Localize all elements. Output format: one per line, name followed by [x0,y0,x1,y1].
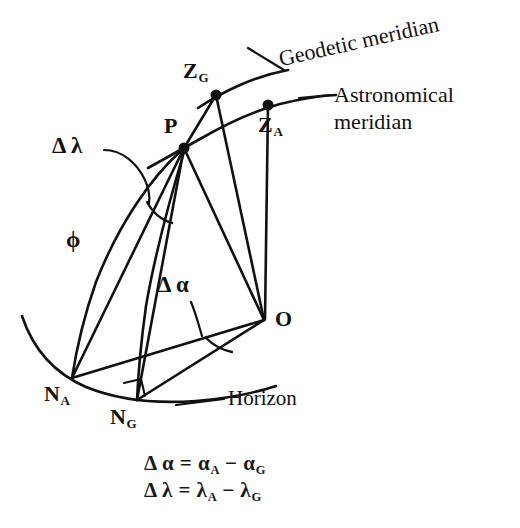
callout-astronomical-meridian-line2: meridian [334,109,454,135]
point-label-za-sub: A [273,124,283,139]
leader-delta-alpha [191,302,202,336]
annotation-delta-alpha: Δ α [157,272,189,298]
point-label-na: NA [44,381,70,407]
point-label-zg-text: Z [183,58,198,83]
vertex-dot-zg [211,90,222,101]
point-label-ng-text: N [110,404,126,429]
equation-delta-alpha: Δ α = αA − αG [144,450,265,477]
point-label-za: ZA [258,112,282,138]
vertex-dot-p [179,143,190,154]
equation-delta-alpha-lhs: Δ α [144,451,174,475]
point-label-na-sub: A [61,393,71,408]
line-o-to-na [72,320,264,378]
callout-astronomical-meridian: Astronomical meridian [334,82,454,135]
point-label-za-text: Z [258,112,273,137]
geodesy-meridian-diagram: P ZG ZA O NA NG Δ λ ϕ Δ α Geodetic merid… [0,0,520,528]
equation-delta-lambda-minus: − [222,478,234,502]
annotation-phi: ϕ [66,227,80,253]
point-label-p-text: P [164,113,178,138]
equation-delta-lambda-term1: λ [196,478,207,502]
point-label-zg-sub: G [198,70,208,85]
right-angle-marker-ng [124,379,145,396]
point-label-na-text: N [44,381,60,406]
point-label-ng: NG [110,404,136,430]
equations-block: Δ α = αA − αG Δ λ = λA − λG [144,450,265,504]
leader-astronomical-meridian [299,95,330,98]
line-zg-to-o [216,95,264,320]
diagram-canvas [0,0,520,528]
equation-delta-lambda-term2: λ [240,478,251,502]
line-p-to-o [184,148,264,320]
callout-astronomical-meridian-line1: Astronomical [334,82,454,107]
equation-delta-alpha-minus: − [225,451,237,475]
vertex-dot-za [263,100,274,111]
point-label-o: O [275,306,292,332]
equation-delta-alpha-term2: α [243,451,255,475]
equation-delta-alpha-term1-sub: A [211,463,220,477]
equation-delta-lambda-term1-sub: A [208,490,217,504]
line-p-to-na [72,148,184,378]
equation-delta-lambda-term2-sub: G [252,490,262,504]
equation-delta-alpha-term1: α [198,451,210,475]
equation-delta-alpha-term2-sub: G [256,463,266,477]
point-label-ng-sub: G [127,416,137,431]
point-label-zg: ZG [183,58,208,84]
angle-arc-delta-alpha [206,338,232,352]
point-label-o-text: O [275,306,292,331]
equation-delta-alpha-equals: = [180,451,192,475]
point-label-p: P [164,113,178,139]
annotation-delta-lambda: Δ λ [52,133,82,159]
equation-delta-lambda-equals: = [178,478,190,502]
equation-delta-lambda-lhs: Δ λ [144,478,173,502]
equation-delta-lambda: Δ λ = λA − λG [144,477,265,504]
callout-horizon: Horizon [228,386,297,411]
